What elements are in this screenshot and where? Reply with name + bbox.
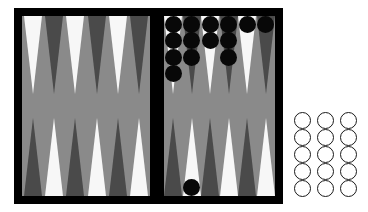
black-checker[interactable]	[183, 49, 200, 66]
black-checker[interactable]	[202, 16, 219, 33]
point-bottom-right-5[interactable]	[238, 118, 256, 196]
white-checker[interactable]	[340, 129, 357, 146]
black-checker[interactable]	[165, 65, 182, 82]
black-checker[interactable]	[220, 49, 237, 66]
white-checker[interactable]	[294, 112, 311, 129]
white-checker[interactable]	[294, 146, 311, 163]
white-checker-tray[interactable]	[294, 112, 362, 200]
point-bottom-left-4[interactable]	[88, 118, 106, 196]
white-checker[interactable]	[294, 180, 311, 197]
point-bottom-left-2[interactable]	[45, 118, 63, 196]
white-checker[interactable]	[340, 112, 357, 129]
white-checker[interactable]	[317, 146, 334, 163]
point-top-left-4[interactable]	[88, 16, 106, 94]
board-frame	[14, 8, 283, 204]
point-top-left-6[interactable]	[130, 16, 148, 94]
white-checker[interactable]	[317, 129, 334, 146]
white-checker[interactable]	[340, 163, 357, 180]
black-checker[interactable]	[165, 32, 182, 49]
point-bottom-right-6[interactable]	[257, 118, 275, 196]
point-bottom-right-3[interactable]	[201, 118, 219, 196]
point-bottom-right-4[interactable]	[220, 118, 238, 196]
point-bottom-left-6[interactable]	[130, 118, 148, 196]
point-bottom-left-3[interactable]	[66, 118, 84, 196]
black-checker[interactable]	[165, 49, 182, 66]
black-checker[interactable]	[202, 32, 219, 49]
white-checker[interactable]	[340, 146, 357, 163]
backgammon-scene	[0, 0, 368, 212]
white-checker[interactable]	[317, 112, 334, 129]
point-bottom-left-1[interactable]	[24, 118, 42, 196]
white-checker[interactable]	[317, 180, 334, 197]
center-bar	[150, 8, 164, 204]
white-checker[interactable]	[317, 163, 334, 180]
point-top-left-3[interactable]	[66, 16, 84, 94]
point-top-left-1[interactable]	[24, 16, 42, 94]
white-checker[interactable]	[340, 180, 357, 197]
black-checker[interactable]	[239, 16, 256, 33]
white-checker[interactable]	[294, 163, 311, 180]
point-top-left-2[interactable]	[45, 16, 63, 94]
point-bottom-left-5[interactable]	[109, 118, 127, 196]
point-top-left-5[interactable]	[109, 16, 127, 94]
black-checker[interactable]	[165, 16, 182, 33]
white-checker[interactable]	[294, 129, 311, 146]
point-bottom-right-1[interactable]	[164, 118, 182, 196]
